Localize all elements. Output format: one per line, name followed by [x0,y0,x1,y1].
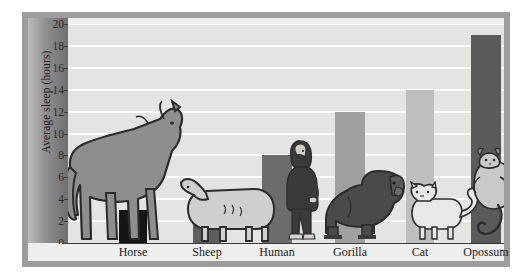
y-axis-ticks: 02468101214161820 [28,18,68,249]
y-tick-label: 10 [53,128,65,140]
gorilla-silhouette [318,163,410,243]
x-label-gorilla: Gorilla [333,245,367,260]
sheep-silhouette [180,169,276,243]
opossum-silhouette [468,147,504,243]
gridline [68,24,504,25]
x-label-human: Human [259,245,294,260]
y-tick-label: 18 [53,40,65,52]
horse-silhouette [68,93,188,243]
y-tick-label: 16 [53,62,65,74]
y-tick-label: 12 [53,106,65,118]
plot-area [68,24,504,243]
x-label-horse: Horse [119,245,148,260]
x-label-sheep: Sheep [192,245,221,260]
y-tick-label: 20 [53,18,65,30]
x-label-cat: Cat [412,245,429,260]
gridline [68,45,504,47]
chart-panel: Average sleep (hours) 02468101214161820 … [28,18,504,261]
x-axis-label-band: HorseSheepHumanGorillaCatOpossum [28,244,504,261]
y-tick-label: 14 [53,84,65,96]
x-label-opossum: Opossum [463,245,508,260]
chart-figure: Average sleep (hours) 02468101214161820 … [22,12,510,267]
gridline [68,89,504,91]
gridline [68,67,504,69]
